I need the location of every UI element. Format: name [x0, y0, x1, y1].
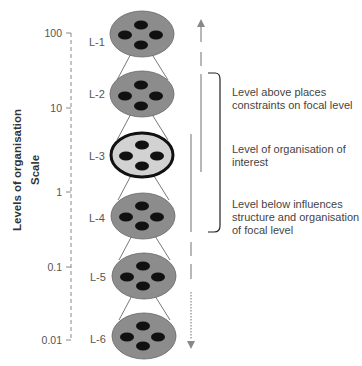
tick-label-100: 100 — [44, 27, 62, 39]
nucleus-icon — [135, 202, 149, 211]
tick-label-0.1: 0.1 — [47, 261, 62, 273]
nucleus-icon — [136, 262, 150, 271]
nucleus-icon — [149, 92, 163, 101]
tick-label-10: 10 — [50, 102, 62, 114]
annotation-level-above: Level above places constraints on focal … — [232, 86, 362, 112]
nucleus-icon — [136, 342, 150, 351]
level-label-l2: L-2 — [89, 88, 105, 100]
nucleus-icon — [134, 21, 148, 30]
level-label-l4: L-4 — [89, 212, 105, 224]
annotation-level-below: Level below influences structure and org… — [232, 198, 362, 237]
nucleus-icon — [135, 162, 149, 171]
nucleus-icon — [135, 222, 149, 231]
level-label-l3: L-3 — [89, 150, 105, 162]
tick-label-0.01: 0.01 — [42, 334, 63, 346]
tick-label-1: 1 — [56, 186, 62, 198]
level-label-l1: L-1 — [89, 36, 105, 48]
level-label-l5: L-5 — [90, 271, 106, 283]
nucleus-icon — [119, 213, 133, 222]
nucleus-icon — [151, 273, 165, 282]
level-l3-focal — [111, 133, 173, 177]
level-l5 — [112, 253, 176, 299]
nucleus-icon — [149, 31, 163, 40]
level-l2 — [110, 71, 174, 117]
nucleus-icon — [150, 152, 164, 161]
nucleus-icon — [135, 141, 149, 150]
nucleus-icon — [119, 152, 133, 161]
level-label-l6: L-6 — [90, 333, 106, 345]
scale-axis: 100 10 1 0.1 0.01 Levels of organisation… — [11, 27, 71, 346]
level-l6 — [112, 313, 176, 359]
level-l4 — [111, 193, 175, 239]
nucleus-icon — [136, 322, 150, 331]
nucleus-icon — [134, 102, 148, 111]
axis-subtitle: Scale — [29, 155, 41, 185]
upward-arrow — [197, 19, 205, 172]
nucleus-icon — [118, 31, 132, 40]
arrow-up-icon — [197, 19, 205, 27]
nucleus-icon — [150, 213, 164, 222]
axis-title: Levels of organisation — [11, 109, 23, 231]
nucleus-icon — [134, 41, 148, 50]
nucleus-icon — [136, 282, 150, 291]
nucleus-icon — [120, 273, 134, 282]
annotation-focal-level: Level of organisation of interest — [232, 143, 362, 169]
level-l1 — [110, 11, 174, 57]
nucleus-icon — [151, 333, 165, 342]
nucleus-icon — [120, 333, 134, 342]
nucleus-icon — [134, 81, 148, 90]
downward-arrow — [187, 134, 195, 349]
arrow-down-icon — [187, 341, 195, 349]
nucleus-icon — [118, 92, 132, 101]
bracket — [208, 73, 220, 232]
